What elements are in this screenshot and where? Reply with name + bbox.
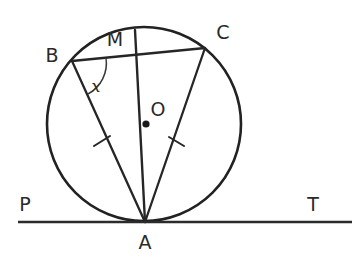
label-point-t: T: [306, 193, 319, 215]
geometry-diagram: B C M O A P T x: [0, 0, 361, 264]
label-point-p: P: [19, 193, 30, 215]
center-dot-o: [142, 120, 149, 127]
circle-tangent-figure: B C M O A P T x: [0, 0, 361, 264]
label-point-c: C: [216, 21, 229, 43]
chord-bc: [72, 48, 205, 61]
label-point-m: M: [107, 28, 123, 50]
label-point-o: O: [151, 98, 166, 120]
label-point-a: A: [139, 231, 152, 253]
segment-ac: [145, 48, 205, 222]
label-angle-x: x: [91, 77, 100, 96]
label-point-b: B: [45, 44, 58, 66]
